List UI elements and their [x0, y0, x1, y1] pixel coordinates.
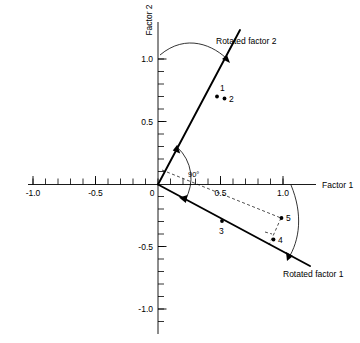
rotated-factor-2-axis — [158, 30, 240, 185]
y-tick-label-neg05: -0.5 — [138, 242, 153, 252]
axis-lines — [28, 22, 316, 334]
y-axis-minor-ticks — [158, 59, 164, 322]
factor-rotation-scatter-plot: -1.0 -0.5 0 0.5 1.0 1.0 0.5 -0.5 -1.0 Fa… — [0, 0, 360, 343]
rotation-arc-factor1-arrowhead — [286, 252, 293, 261]
data-point-label-3: 3 — [219, 226, 224, 236]
data-points — [215, 95, 283, 242]
data-point-3 — [220, 219, 224, 223]
x-tick-label-1: 1.0 — [277, 188, 289, 198]
x-axis-title: Factor 1 — [322, 180, 353, 190]
data-point-1 — [215, 95, 219, 99]
data-point-label-4: 4 — [278, 235, 283, 245]
x-tick-label-neg1: -1.0 — [26, 188, 41, 198]
data-point-4 — [272, 238, 276, 242]
x-tick-label-zero: 0 — [150, 188, 155, 198]
rotated-factor-1-label: Rotated factor 1 — [283, 269, 344, 279]
data-point-label-2: 2 — [229, 94, 234, 104]
data-point-label-5: 5 — [286, 213, 291, 223]
plot-canvas: -1.0 -0.5 0 0.5 1.0 1.0 0.5 -0.5 -1.0 Fa… — [0, 0, 360, 343]
y-tick-label-1: 1.0 — [141, 54, 153, 64]
x-tick-label-05: 0.5 — [215, 188, 227, 198]
y-axis-title: Factor 2 — [144, 4, 154, 35]
data-point-5 — [280, 216, 284, 220]
rotated-factor-2-label: Rotated factor 2 — [216, 36, 277, 46]
x-tick-label-neg05: -0.5 — [88, 188, 103, 198]
right-angle-label: 90° — [188, 170, 199, 179]
y-tick-label-neg1: -1.0 — [138, 304, 153, 314]
projection-line-p4-tick — [265, 232, 272, 234]
data-point-2 — [223, 97, 227, 101]
data-point-label-1: 1 — [220, 83, 225, 93]
y-tick-label-05: 0.5 — [141, 117, 153, 127]
